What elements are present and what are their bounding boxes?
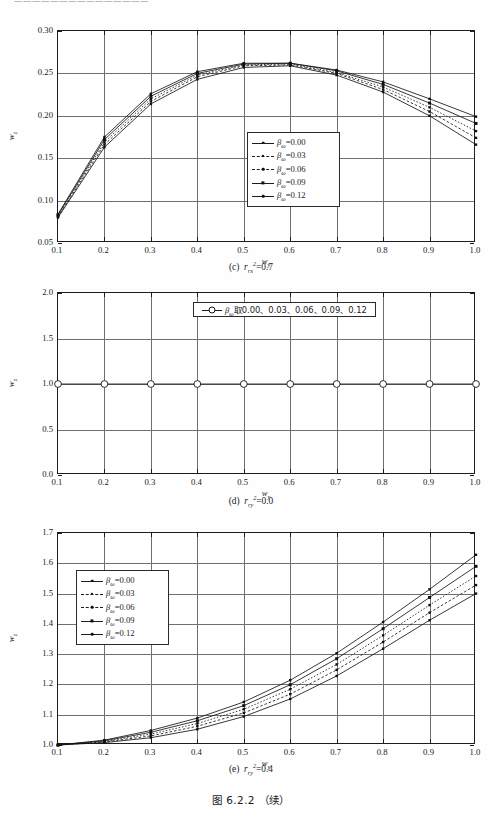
data-point-marker: [475, 130, 477, 132]
caption-value: =0.7: [256, 262, 273, 272]
x-axis-tick-label: 0.4: [191, 245, 202, 255]
data-point-marker: [103, 146, 105, 148]
data-point-marker: [289, 698, 291, 700]
data-point-marker: [428, 102, 431, 105]
data-point-marker: [335, 663, 337, 665]
legend-item-label: βω=0.00: [106, 575, 135, 587]
x-axis-tick-label: 0.9: [423, 747, 434, 757]
x-axis-tick-label: 0.1: [52, 245, 63, 255]
caption-symbol: rrx2: [244, 262, 256, 272]
data-point-marker: [242, 704, 245, 707]
x-axis-tick-label: 1.0: [470, 245, 481, 255]
x-axis-tick-label: 0.3: [144, 747, 155, 757]
y-axis-tick-label: 0.10: [38, 195, 53, 205]
x-axis-tick-label: 0.8: [377, 477, 388, 487]
data-point-marker: [428, 596, 431, 599]
data-point-marker: [475, 575, 477, 577]
data-point-marker: [382, 83, 385, 86]
y-axis-title-text: wz: [6, 132, 16, 140]
axis-tick: [58, 243, 62, 244]
data-point-marker: [426, 381, 433, 388]
data-point-marker: [240, 381, 247, 388]
y-axis-tick-label: 1.5: [42, 588, 53, 598]
legend-marker-icon: [81, 616, 103, 626]
legend-item: βω=0.00: [252, 136, 333, 149]
legend-item-label: βω=0.00: [277, 137, 306, 149]
x-axis-tick-label: 0.2: [98, 747, 109, 757]
data-point-marker: [382, 621, 384, 623]
data-point-marker: [382, 81, 384, 83]
y-axis-tick-label: 1.3: [42, 648, 53, 658]
axis-tick: [470, 243, 474, 244]
y-axis-tick-label: 0.30: [38, 25, 53, 35]
legend-item-label: βω=0.06: [106, 602, 135, 614]
y-axis-tick-label: 1.7: [42, 527, 53, 537]
caption-value: =0.4: [256, 764, 273, 774]
legend-c: βω=0.00βω=0.03βω=0.06βω=0.09βω=0.12: [247, 132, 340, 207]
caption-label: (d): [229, 496, 240, 506]
legend-marker-icon: [81, 576, 103, 586]
legend-item-label: βω=0.09: [106, 615, 135, 627]
data-point-marker: [196, 722, 198, 724]
x-axis-tick-label: 0.7: [330, 245, 341, 255]
y-axis-title-text: wz: [6, 379, 16, 387]
y-axis-tick-label: 1.4: [42, 618, 53, 628]
data-point-marker: [428, 611, 430, 613]
data-point-marker: [103, 739, 105, 741]
axis-tick: [58, 475, 62, 476]
data-point-marker: [382, 634, 384, 636]
legend-item-label: βω=0.03: [277, 150, 306, 162]
legend-item-label: βω=0.09: [277, 177, 306, 189]
data-point-marker: [150, 729, 152, 731]
data-point-marker: [289, 688, 291, 690]
y-axis-tick-label: 0.15: [38, 152, 53, 162]
data-point-marker: [287, 381, 294, 388]
legend-marker-icon: [252, 178, 274, 188]
data-point-marker: [57, 744, 59, 746]
data-point-marker: [382, 88, 384, 90]
legend-item: βω=0.00: [81, 574, 162, 587]
legend-marker-icon: [252, 138, 274, 148]
legend-item: βω=0.03: [81, 587, 162, 600]
legend-item: βω=0.12: [81, 628, 162, 641]
axis-tick: [470, 475, 474, 476]
legend-marker-icon: [81, 602, 103, 612]
data-point-marker: [289, 679, 291, 681]
data-point-marker: [428, 106, 430, 108]
data-point-marker: [475, 554, 477, 556]
legend-marker-icon: [81, 589, 103, 599]
data-point-marker: [335, 675, 337, 677]
running-head: ———————————————: [14, 0, 149, 5]
caption-symbol: rry2: [244, 764, 256, 774]
data-point-marker: [428, 619, 430, 621]
data-point-marker: [475, 565, 478, 568]
plot-area-d: [57, 292, 475, 474]
figure-d: wz wy (d) rry2=0.0 βω取0.00、0.03、0.06、0.0…: [0, 286, 502, 518]
data-point-marker: [428, 604, 430, 606]
y-axis-tick-label: 0.20: [38, 110, 53, 120]
data-point-marker: [150, 103, 152, 105]
x-axis-tick-label: 0.2: [98, 245, 109, 255]
data-point-marker: [382, 647, 384, 649]
data-point-marker: [475, 143, 477, 145]
data-point-marker: [196, 719, 199, 722]
legend-d-values: 取0.00、0.03、0.06、0.09、0.12: [234, 305, 367, 315]
x-axis-tick-label: 0.7: [330, 747, 341, 757]
caption-e: (e) rry2=0.4: [0, 762, 502, 776]
caption-value: =0.0: [256, 496, 273, 506]
book-page: ——————————————— wz wy (c) rrx2=0.7 βω=0.…: [0, 0, 502, 820]
caption-label: (c): [229, 262, 239, 272]
caption-c: (c) rrx2=0.7: [0, 260, 502, 274]
legend-item-label: βω=0.12: [106, 628, 135, 640]
data-point-marker: [475, 584, 477, 586]
x-axis-tick-label: 0.3: [144, 245, 155, 255]
x-axis-tick-label: 0.2: [98, 477, 109, 487]
x-axis-tick-label: 0.6: [284, 477, 295, 487]
data-point-marker: [475, 115, 477, 117]
y-axis-title-d: wz: [6, 379, 18, 387]
x-axis-tick-label: 0.8: [377, 245, 388, 255]
data-point-marker: [57, 213, 59, 215]
data-point-marker: [196, 717, 198, 719]
x-axis-tick-label: 0.6: [284, 245, 295, 255]
legend-marker-icon: [252, 164, 274, 174]
